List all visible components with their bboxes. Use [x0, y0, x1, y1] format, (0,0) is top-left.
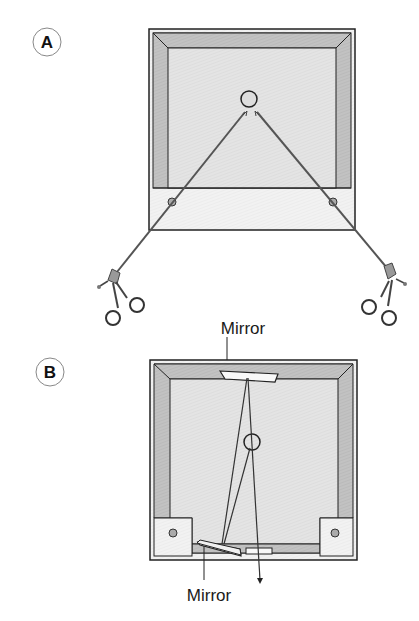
panel-a-label: A: [33, 28, 61, 56]
target-a: [241, 91, 257, 107]
box-trainer-a: [149, 29, 355, 230]
arrow-head: [257, 578, 263, 584]
mirror-top-label: Mirror: [221, 319, 266, 338]
panel-b-label: B: [36, 358, 64, 386]
box-trainer-diagram: A: [0, 0, 419, 621]
panel-b-letter: B: [44, 363, 56, 382]
panel-b: B Mirror: [36, 319, 357, 605]
box-trainer-b: [150, 360, 357, 560]
mirror-bottom-label: Mirror: [187, 586, 232, 605]
panel-a: A: [33, 28, 407, 325]
panel-a-letter: A: [41, 33, 53, 52]
